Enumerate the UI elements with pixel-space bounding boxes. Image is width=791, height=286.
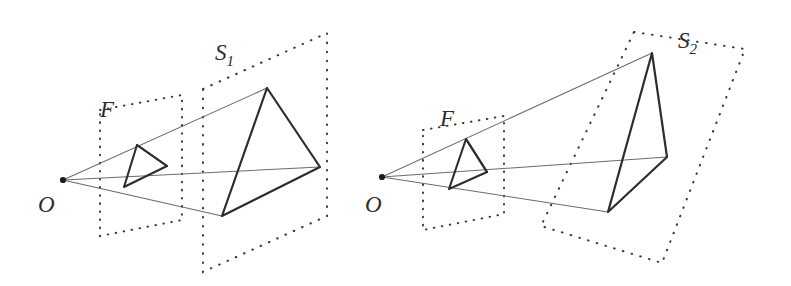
label-far-plane-S1-subscript: 1 — [227, 53, 235, 69]
projection-diagram: O F S1 — [0, 0, 791, 286]
figure-root: O F S1 — [0, 0, 791, 286]
label-near-plane-F-right: F — [439, 106, 455, 131]
label-origin-right: O — [365, 192, 382, 217]
viewpoint-dot-right — [379, 174, 385, 180]
viewpoint-dot-left — [60, 177, 66, 183]
label-far-plane-S2-subscript: 2 — [690, 41, 698, 57]
label-origin-left: O — [38, 192, 55, 217]
label-far-plane-S1-base: S — [215, 40, 227, 65]
canvas-background — [0, 0, 791, 286]
label-far-plane-S2-base: S — [678, 28, 690, 53]
label-near-plane-F-left: F — [99, 97, 115, 122]
